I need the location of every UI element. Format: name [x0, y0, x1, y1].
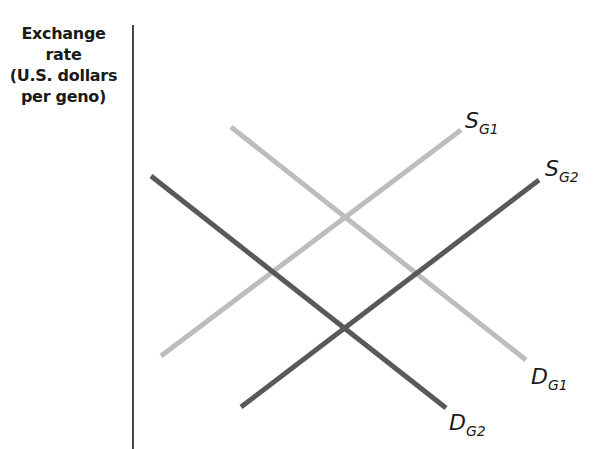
label-demand-g2-sub: G2	[466, 423, 486, 439]
exchange-rate-diagram: SG1 SG2 DG1 DG2	[0, 0, 596, 449]
label-supply-g1-main: S	[465, 108, 479, 133]
label-demand-g2-main: D	[449, 410, 466, 435]
supply-curve-g2	[241, 180, 539, 407]
demand-curve-g2	[151, 176, 446, 408]
label-demand-g1: DG1	[531, 364, 568, 393]
label-supply-g2-sub: G2	[559, 169, 579, 185]
label-demand-g2: DG2	[449, 410, 486, 439]
label-supply-g2: SG2	[545, 156, 579, 185]
label-demand-g1-main: D	[531, 364, 548, 389]
label-supply-g1-sub: G1	[479, 121, 499, 137]
demand-curve-g1	[231, 127, 526, 360]
label-demand-g1-sub: G1	[548, 377, 568, 393]
label-supply-g2-main: S	[545, 156, 559, 181]
supply-curve-g1	[161, 130, 461, 356]
label-supply-g1: SG1	[465, 108, 499, 137]
